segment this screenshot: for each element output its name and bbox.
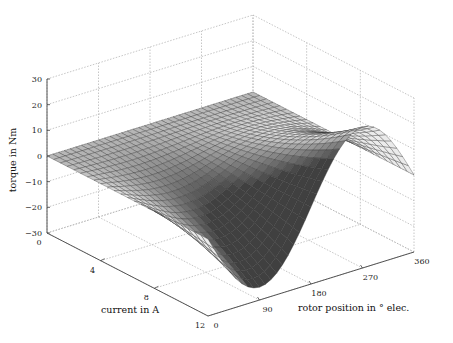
z-tick-label: 10 <box>32 126 42 135</box>
z-tick-label: −30 <box>25 229 42 238</box>
z-tick-label: 20 <box>32 101 42 110</box>
x-tick-label: 360 <box>414 257 429 266</box>
z-tick-label: −10 <box>25 178 42 187</box>
z-tick-label: 30 <box>32 75 42 84</box>
x-tick-label: 270 <box>363 273 378 282</box>
y-tick-label: 0 <box>36 238 41 247</box>
z-axis-label: torque in Nm <box>7 128 18 192</box>
y-axis-label: current in A <box>101 304 159 315</box>
z-tick-label: 0 <box>37 152 42 161</box>
x-axis-label: rotor position in ° elec. <box>298 302 409 313</box>
surface-plot: −30−20−10010203004812090180270360 torque… <box>0 0 453 343</box>
x-tick-label: 90 <box>262 305 272 314</box>
y-tick-label: 4 <box>90 266 95 275</box>
z-tick-label: −20 <box>25 203 42 212</box>
x-tick-label: 0 <box>213 321 218 330</box>
y-tick-label: 12 <box>195 321 205 330</box>
x-tick-label: 180 <box>311 289 326 298</box>
y-tick-label: 8 <box>144 293 149 302</box>
